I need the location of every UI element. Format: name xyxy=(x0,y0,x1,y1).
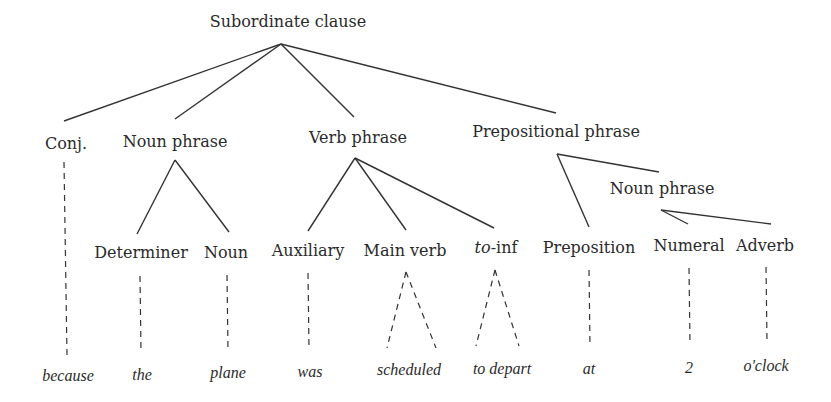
word-because: because xyxy=(42,368,94,384)
branch-np1-noun xyxy=(175,160,229,232)
node-conj: Conj. xyxy=(45,136,87,152)
dash-noun-plane xyxy=(227,275,228,351)
dash-adv-oclock xyxy=(766,267,767,343)
branch-vp-toinf xyxy=(355,158,494,228)
branch-vp-mainverb xyxy=(355,158,406,230)
node-adverb: Adverb xyxy=(736,238,794,254)
node-noun-phrase: Noun phrase xyxy=(123,134,228,150)
node-to-inf: to-inf xyxy=(475,240,518,256)
branch-root-pp xyxy=(281,44,556,113)
node-determiner: Determiner xyxy=(94,245,188,261)
tree-branches xyxy=(0,0,831,402)
node-verb-phrase: Verb phrase xyxy=(309,130,407,146)
word-the: the xyxy=(132,367,152,383)
node-main-verb: Main verb xyxy=(364,243,447,259)
branch-pp-prep xyxy=(557,154,589,227)
node-subordinate-clause: Subordinate clause xyxy=(210,14,367,30)
word-scheduled: scheduled xyxy=(377,362,441,378)
dash-prep-at xyxy=(589,270,590,346)
node-noun: Noun xyxy=(204,245,248,261)
word-to-depart: to depart xyxy=(473,361,531,377)
to-inf-italic-part: to xyxy=(475,238,491,257)
dash-det-the xyxy=(140,276,141,352)
branch-root-np1 xyxy=(175,44,281,119)
branch-root-vp xyxy=(281,44,354,117)
node-auxiliary: Auxiliary xyxy=(272,243,344,259)
node-noun-phrase-2: Noun phrase xyxy=(610,181,715,197)
word-2: 2 xyxy=(685,360,693,376)
dash-mainverb-left xyxy=(387,272,406,348)
branch-pp-np2 xyxy=(557,154,659,172)
dash-conj-because xyxy=(64,162,67,356)
branch-vp-aux xyxy=(308,158,355,231)
dash-num-2 xyxy=(689,268,690,345)
dash-mainverb-right xyxy=(406,272,436,348)
node-preposition: Preposition xyxy=(543,240,636,256)
dash-aux-was xyxy=(308,273,309,349)
node-prepositional-phrase: Prepositional phrase xyxy=(472,124,640,140)
dash-toinf-right xyxy=(495,270,519,346)
node-numeral: Numeral xyxy=(653,238,724,254)
word-at: at xyxy=(583,361,595,377)
dash-toinf-left xyxy=(476,270,495,346)
word-was: was xyxy=(298,364,323,380)
syntax-tree-diagram: Subordinate clause Conj. Noun phrase Ver… xyxy=(0,0,831,402)
branch-root-conj xyxy=(64,44,281,121)
to-inf-roman-part: -inf xyxy=(491,238,518,257)
branch-np1-det xyxy=(137,160,175,234)
branch-np2-adv xyxy=(661,210,771,224)
word-oclock: o'clock xyxy=(743,358,788,374)
word-plane: plane xyxy=(210,365,246,381)
